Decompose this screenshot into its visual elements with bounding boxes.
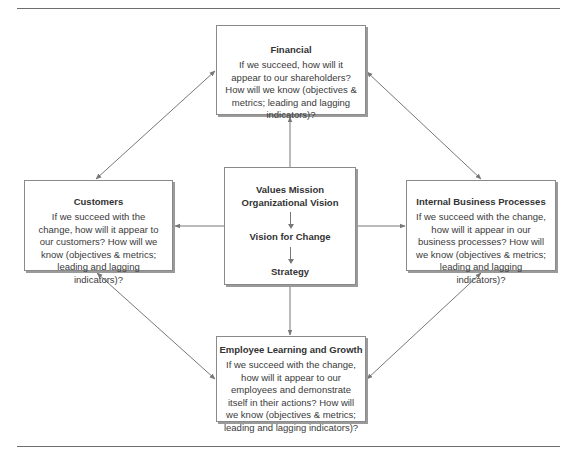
employee-title: Employee Learning and Growth (217, 344, 365, 355)
internal-body: If we succeed with the change, how will … (407, 211, 555, 286)
internal-box: Internal Business Processes If we succee… (406, 180, 556, 271)
arrow-financial-internal (367, 72, 481, 179)
financial-body: If we succeed, how will it appear to our… (217, 59, 365, 122)
employee-box: Employee Learning and Growth If we succe… (216, 336, 366, 422)
arrow-down-icon (225, 209, 355, 231)
internal-title: Internal Business Processes (407, 196, 555, 207)
arrow-financial-customers (96, 71, 215, 179)
customers-box: Customers If we succeed with the change,… (24, 180, 173, 271)
financial-box: Financial If we succeed, how will it app… (216, 25, 366, 115)
employee-body: If we succeed with the change, how will … (217, 359, 365, 434)
customers-title: Customers (25, 196, 172, 207)
customers-body: If we succeed with the change, how will … (25, 211, 172, 286)
financial-title: Financial (217, 44, 365, 55)
values-mission-vision: Values Mission Organizational Vision (225, 184, 355, 209)
arrow-customers-employee (97, 273, 215, 379)
arrow-down-icon (225, 244, 355, 266)
arrow-internal-employee (367, 273, 481, 379)
strategy: Strategy (225, 266, 355, 279)
vision-for-change: Vision for Change (225, 231, 355, 244)
center-box: Values Mission Organizational Vision Vis… (224, 167, 356, 285)
